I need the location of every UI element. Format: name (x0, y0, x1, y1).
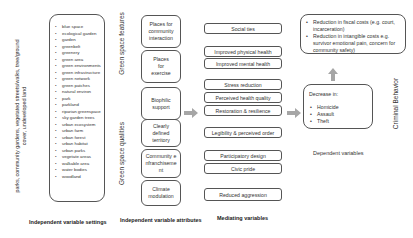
settings-terms-box: blue spaceecological gardengardengreenbe… (49, 14, 105, 202)
mediator-mental-health: Improved mental health (204, 58, 282, 69)
mediator-legibility: Legibility & perceived order (204, 127, 282, 138)
mediator-perceived-health: Perceived health quality (204, 92, 282, 103)
attributes-column-label: Independent variable attributes (120, 217, 202, 223)
arrow-right-icon (287, 108, 301, 118)
settings-terms-list: blue spaceecological gardengardengreenbe… (54, 24, 104, 180)
mediator-stress-reduction: Stress reduction (204, 79, 282, 90)
attribute-enfranchisement: Community enfranchisement (141, 149, 181, 178)
mediating-column-label: Mediating variables (217, 215, 268, 221)
arrow-up-icon (328, 68, 338, 81)
features-group-label: Green space features (118, 9, 125, 79)
mediator-restoration: Restoration & resilience (204, 105, 282, 116)
decrease-title: Decrease in: (309, 91, 368, 98)
mediator-civic-pride: Civic pride (204, 163, 282, 174)
attribute-biophilic: Biophilic support (141, 87, 181, 120)
crime-decrease-box: Decrease in: Homicide Assault Theft (303, 84, 373, 129)
settings-column-label: Independent variable settings (29, 219, 107, 225)
crime-item-assault: Assault (309, 111, 368, 118)
crime-item-theft: Theft (309, 118, 368, 125)
cost-item: Reduction in fiscal costs (e.g. court, i… (305, 19, 402, 33)
mediator-social-ties: Social ties (204, 23, 282, 34)
arrow-right-icon (184, 108, 198, 118)
attribute-climate: Climate modulation (141, 180, 181, 206)
cost-item: Reduction in intangible costs e.g. survi… (305, 33, 402, 54)
dependent-column-label: Dependent variables (313, 150, 363, 156)
cost-reduction-box: Reduction in fiscal costs (e.g. court, i… (300, 14, 406, 54)
attribute-exercise: Places for exercise (141, 50, 181, 83)
setting-examples-label: parks, community gardens, vegetated stre… (14, 36, 30, 196)
mediator-participatory-design: Participatory design (204, 150, 282, 161)
attribute-territory: Clearly defined territory (141, 119, 181, 147)
crime-item-homicide: Homicide (309, 104, 368, 111)
criminal-behavior-label: Criminal Behavior (392, 69, 399, 139)
settings-term: woodland (54, 174, 104, 181)
qualities-group-label: Green space qualities (118, 119, 125, 189)
mediator-physical-health: Improved physical health (204, 46, 282, 57)
attribute-community-interaction: Places for community interaction (141, 15, 181, 48)
mediator-reduced-aggression: Reduced aggression (204, 188, 282, 201)
